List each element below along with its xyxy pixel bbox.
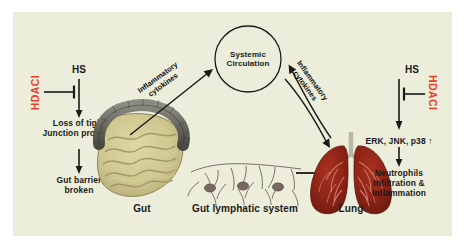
right-pathway-arrows: [13, 12, 452, 236]
right-step2-line3: Inflammation: [349, 189, 449, 199]
figure-panel: HS HDACI Loss of tight Junction proteins…: [13, 12, 452, 236]
right-step1: ERK, JNK, p38 ↑: [347, 137, 451, 147]
right-step2: Neutrophils Infiltration & Inflammation: [349, 169, 449, 198]
